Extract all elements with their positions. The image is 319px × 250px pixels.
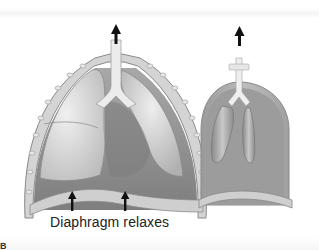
panel-letter: B (0, 241, 7, 250)
bell-jar-model (199, 26, 292, 208)
thorax-model (25, 24, 207, 218)
diaphragm-caption: Diaphragm relaxes (50, 214, 169, 230)
respiration-diagram: Diaphragm relaxes B (0, 0, 319, 250)
diagram-artwork (0, 0, 319, 250)
airflow-up-arrow-icon (235, 26, 245, 46)
